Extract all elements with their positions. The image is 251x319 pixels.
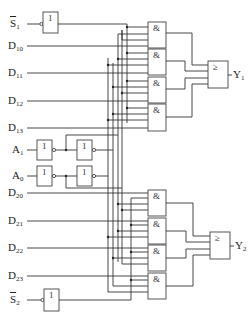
input-label-s2: S2 <box>10 294 20 307</box>
or-gate-1-symbol: ≥ <box>213 63 218 72</box>
not-gate-a0-first-symbol: 1 <box>42 168 47 177</box>
not-gate-s1-symbol: 1 <box>48 14 53 23</box>
input-label-s1: S1 <box>10 18 20 31</box>
input-label-d12: D12 <box>8 95 23 108</box>
input-label-a1: A1 <box>12 144 23 157</box>
not-gate-s2-symbol: 1 <box>49 291 54 300</box>
input-label-d10: D10 <box>8 40 23 53</box>
and-gate-1-symbol: & <box>153 24 160 33</box>
and-gate-7-symbol: & <box>153 247 160 256</box>
input-label-d23: D23 <box>8 270 23 283</box>
output-label-y2: Y2 <box>235 240 246 253</box>
and-gate-5-symbol: & <box>153 192 160 201</box>
and-gate-2-symbol: & <box>153 51 160 60</box>
not-gate-a0-second-symbol: 1 <box>82 168 87 177</box>
input-label-d21: D21 <box>8 215 23 228</box>
not-gate-a1-second-symbol: 1 <box>82 142 87 151</box>
circuit-wiring <box>0 0 251 319</box>
and-gate-4-symbol: & <box>153 106 160 115</box>
input-label-d22: D22 <box>8 242 23 255</box>
and-gate-6-symbol: & <box>153 220 160 229</box>
and-gate-8-symbol: & <box>153 275 160 284</box>
not-gate-a1-first-symbol: 1 <box>42 142 47 151</box>
input-label-d20: D20 <box>8 187 23 200</box>
input-label-d11: D11 <box>8 67 23 80</box>
or-gate-2-symbol: ≥ <box>215 234 220 243</box>
and-gate-3-symbol: & <box>153 79 160 88</box>
output-label-y1: Y1 <box>233 69 244 82</box>
input-label-d13: D13 <box>8 122 23 135</box>
input-label-a0: A0 <box>12 170 23 183</box>
